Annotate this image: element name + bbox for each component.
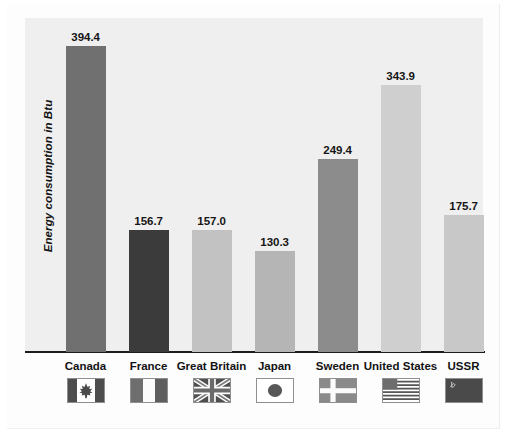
bar-canada[interactable] (66, 46, 106, 352)
bar-value-canada: 394.4 (57, 31, 114, 43)
flag-great-britain-icon (193, 378, 231, 403)
bar-value-sweden: 249.4 (309, 144, 366, 156)
bar-japan[interactable] (255, 251, 295, 352)
flag-ussr-icon (445, 378, 483, 403)
chart-figure: Energy consumption in Btu 394.4 156.7 15… (0, 0, 508, 436)
flag-japan-icon (256, 378, 294, 403)
bar-great-britain[interactable] (192, 230, 232, 352)
bar-value-japan: 130.3 (246, 236, 303, 248)
bar-value-ussr: 175.7 (435, 200, 492, 212)
bar-value-france: 156.7 (120, 215, 177, 227)
bar-value-great-britain: 157.0 (183, 215, 240, 227)
bar-united-states[interactable] (381, 85, 421, 352)
flag-france-icon (130, 378, 168, 403)
bar-slot-france: 156.7 (120, 18, 177, 352)
category-legend-row: Canada France G (25, 356, 483, 428)
country-label-ussr: USSR (421, 360, 506, 372)
bar-sweden[interactable] (318, 159, 358, 352)
flag-canada-icon (67, 378, 105, 403)
bar-slot-canada: 394.4 (57, 18, 114, 352)
legend-cell-ussr: USSR (435, 356, 492, 428)
bar-slot-japan: 130.3 (246, 18, 303, 352)
bar-series: 394.4 156.7 157.0 130.3 249.4 343.9 (25, 18, 483, 352)
bar-slot-united-states: 343.9 (372, 18, 429, 352)
bar-slot-ussr: 175.7 (435, 18, 492, 352)
bar-france[interactable] (129, 230, 169, 352)
bar-slot-great-britain: 157.0 (183, 18, 240, 352)
flag-united-states-icon (382, 378, 420, 403)
flag-sweden-icon (319, 378, 357, 403)
bar-slot-sweden: 249.4 (309, 18, 366, 352)
bar-ussr[interactable] (444, 215, 484, 352)
bar-value-united-states: 343.9 (372, 70, 429, 82)
